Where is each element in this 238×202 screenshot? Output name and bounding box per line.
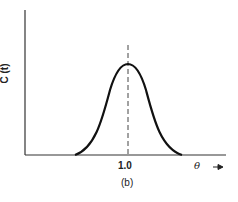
figure-caption: (b) [121, 177, 133, 188]
arrow-icon [213, 165, 223, 170]
y-axis-label: C (t) [0, 64, 10, 84]
x-tick-label: 1.0 [118, 160, 132, 171]
chart-canvas [0, 0, 238, 202]
x-axis-label: θ [194, 160, 200, 171]
